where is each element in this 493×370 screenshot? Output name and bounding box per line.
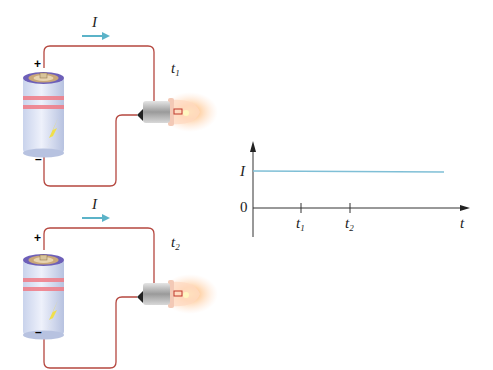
minus-terminal-1: – [35,152,42,166]
x-axis-label: t [460,215,464,232]
current-label-2: I [92,196,97,213]
x-tick-t1: t1 [296,215,305,233]
y-label-zero: 0 [240,199,248,216]
diagram-canvas [0,0,493,370]
time-label-1: t1 [171,60,180,78]
current-time-graph [250,141,470,237]
current-line [253,171,444,172]
y-label-current: I [240,163,245,180]
plus-terminal-2: + [34,231,41,245]
circuit-t2 [23,214,218,368]
time-label-2: t2 [171,234,180,252]
circuit-t1 [23,32,218,186]
minus-terminal-2: – [35,325,42,339]
current-label-1: I [92,14,97,31]
plus-terminal-1: + [34,57,41,71]
x-tick-t2: t2 [345,215,354,233]
